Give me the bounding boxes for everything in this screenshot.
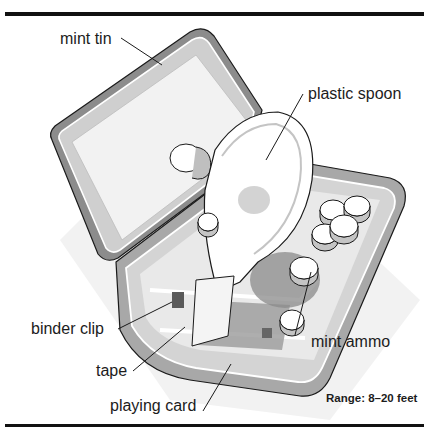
label-playing-card: playing card — [110, 397, 196, 415]
label-tape: tape — [96, 362, 127, 380]
label-binder-clip: binder clip — [31, 320, 104, 338]
binder-clip — [172, 292, 184, 308]
tape-band — [192, 276, 234, 346]
bottom-rule — [5, 424, 424, 427]
label-mint-tin: mint tin — [60, 30, 112, 48]
label-plastic-spoon: plastic spoon — [308, 85, 401, 103]
mint-tin-catapult-illustration — [0, 0, 443, 444]
label-mint-ammo: mint ammo — [311, 333, 390, 351]
range-note: Range: 8–20 feet — [326, 392, 417, 404]
